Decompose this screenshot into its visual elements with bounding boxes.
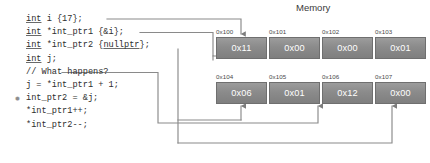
memory-row: 0x11 0x00 0x00 0x01 bbox=[216, 37, 426, 59]
code-line: ✹int_ptr2 = &j; bbox=[14, 92, 164, 105]
address-labels-row-1: 0x104 0x105 0x106 0x107 bbox=[216, 73, 426, 82]
code-text: i {17}; bbox=[41, 14, 82, 24]
code-text: j; bbox=[41, 54, 56, 64]
memory-title: Memory bbox=[296, 2, 330, 13]
address-label: 0x107 bbox=[375, 73, 426, 82]
code-text: *int_ptr2 { bbox=[41, 40, 103, 50]
address-label: 0x100 bbox=[216, 28, 267, 37]
code-line: *int_ptr1++; bbox=[14, 105, 164, 118]
code-block: int i {17};int *int_ptr1 {&i};int *int_p… bbox=[14, 13, 164, 132]
code-text: int_ptr2 = &j; bbox=[26, 93, 98, 103]
address-label: 0x106 bbox=[322, 73, 373, 82]
memory-cell: 0x12 bbox=[322, 82, 373, 104]
memory-cell: 0x01 bbox=[269, 82, 320, 104]
memory-cell: 0x00 bbox=[322, 37, 373, 59]
code-text: // What happens? bbox=[26, 67, 109, 77]
memory-row: 0x06 0x01 0x12 0x00 bbox=[216, 82, 426, 104]
memory-cell: 0x11 bbox=[216, 37, 267, 59]
address-labels-row-0: 0x100 0x101 0x102 0x103 bbox=[216, 28, 426, 37]
code-line: int *int_ptr1 {&i}; bbox=[14, 26, 164, 39]
code-line: j = *int_ptr1 + 1; bbox=[14, 79, 164, 92]
code-keyword: int bbox=[26, 27, 41, 37]
code-keyword: int bbox=[26, 14, 41, 24]
memory-cell: 0x01 bbox=[375, 37, 426, 59]
code-keyword: nullptr bbox=[103, 40, 139, 50]
code-text: *int_ptr2--; bbox=[26, 120, 88, 130]
code-text: j = *int_ptr1 + 1; bbox=[26, 80, 119, 90]
code-keyword: int bbox=[26, 40, 41, 50]
address-label: 0x104 bbox=[216, 73, 267, 82]
memory-cell: 0x00 bbox=[375, 82, 426, 104]
breakpoint-marker-icon: ✹ bbox=[14, 96, 21, 103]
wire-bottom-to-0x106 bbox=[178, 106, 392, 143]
code-line: // What happens? bbox=[14, 66, 164, 79]
address-label: 0x103 bbox=[375, 28, 426, 37]
code-line: int *int_ptr2 {nullptr}; bbox=[14, 39, 164, 52]
code-text: }; bbox=[139, 40, 149, 50]
address-label: 0x101 bbox=[269, 28, 320, 37]
code-text: *int_ptr1++; bbox=[26, 106, 88, 116]
code-line: *int_ptr2--; bbox=[14, 119, 164, 132]
memory-cell: 0x00 bbox=[269, 37, 320, 59]
memory-cell: 0x06 bbox=[216, 82, 267, 104]
code-line: int i {17}; bbox=[14, 13, 164, 26]
pointer-memory-diagram: int i {17};int *int_ptr1 {&i};int *int_p… bbox=[0, 0, 430, 163]
code-line: int j; bbox=[14, 53, 164, 66]
address-label: 0x102 bbox=[322, 28, 373, 37]
address-label: 0x105 bbox=[269, 73, 320, 82]
code-text: *int_ptr1 {&i}; bbox=[41, 27, 124, 37]
code-keyword: int bbox=[26, 54, 41, 64]
